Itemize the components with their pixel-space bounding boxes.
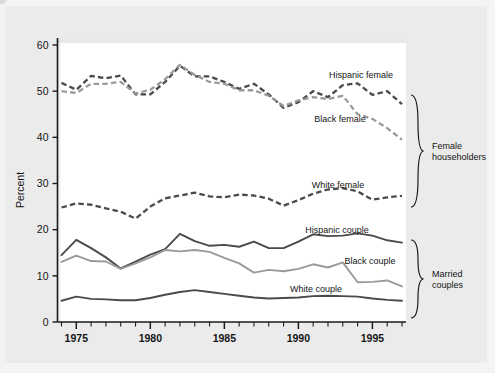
series-annotation: Hispanic female [329,70,393,80]
y-tick-label: 40 [37,131,49,143]
y-tick-label: 30 [37,177,49,189]
plot-top-shade [58,38,407,43]
y-tick-label: 50 [37,85,49,97]
series-annotation: Black couple [344,256,395,266]
y-tick-label: 60 [37,39,49,51]
y-tick-label: 20 [37,223,49,235]
x-tick-label: 1995 [361,332,385,344]
x-tick-label: 1975 [65,332,89,344]
group-label-line1: Married [432,269,463,279]
figure-container: 010203040506019751980198519901995Percent… [0,0,495,373]
x-tick-label: 1980 [139,332,163,344]
series-annotation: Black female [314,114,366,124]
series-annotation: White couple [290,284,342,294]
group-bracket [411,240,424,318]
y-tick-label: 0 [43,316,49,328]
y-axis-title: Percent [14,172,26,208]
series-annotation: Hispanic couple [305,225,369,235]
group-label-line2: householders [432,152,487,162]
group-bracket [411,95,424,207]
x-tick-label: 1990 [287,332,311,344]
group-label-line1: Female [432,141,462,151]
y-tick-label: 10 [37,270,49,282]
series-annotation: White female [312,180,365,190]
line-chart: 010203040506019751980198519901995Percent… [0,0,495,373]
x-tick-label: 1985 [213,332,237,344]
group-label-line2: couples [432,280,464,290]
